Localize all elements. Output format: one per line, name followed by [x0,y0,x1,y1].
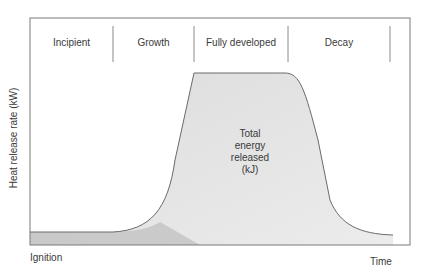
phase-growth: Growth [113,37,194,48]
area-label: Total energy released (kJ) [215,128,285,176]
energy-area [30,73,393,245]
area-label-line: energy [215,140,285,152]
x-axis-start-label: Ignition [30,252,62,263]
area-label-line: (kJ) [215,164,285,176]
phase-fully-developed: Fully developed [194,37,288,48]
area-label-line: Total [215,128,285,140]
y-axis-label: Heat release rate (kW) [8,88,19,189]
phase-incipient: Incipient [30,37,113,48]
area-label-line: released [215,152,285,164]
phase-decay: Decay [288,37,390,48]
x-axis-end-label: Time [370,256,392,267]
